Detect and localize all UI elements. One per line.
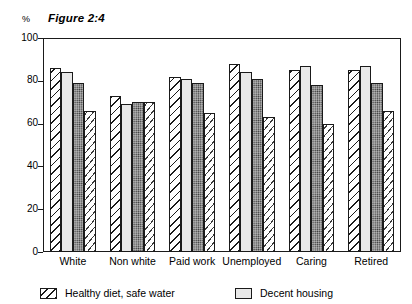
bar-group: [348, 38, 394, 252]
x-axis-tick-label: Retired: [331, 255, 411, 268]
legend-item: Decent housing: [235, 286, 333, 300]
legend-item: Healthy diet, safe water: [40, 286, 175, 300]
bar: [240, 72, 251, 252]
legend-swatch-icon: [235, 288, 252, 299]
legend-label: Healthy diet, safe water: [65, 287, 175, 299]
figure-title: Figure 2:4: [48, 12, 105, 24]
y-axis-tick-label: 80: [4, 75, 38, 85]
bar: [121, 104, 132, 252]
y-axis-tick-label: 40: [4, 161, 38, 171]
bar: [204, 113, 215, 252]
bar: [169, 77, 180, 252]
y-axis-tick-label: 20: [4, 204, 38, 214]
bar: [252, 79, 263, 252]
bar: [132, 102, 143, 252]
legend-swatch-icon: [40, 288, 57, 299]
legend-label: Decent housing: [260, 287, 333, 299]
y-axis-tick-mark: [38, 252, 43, 253]
bar: [73, 83, 84, 252]
y-axis-tick-label: 60: [4, 118, 38, 128]
bar: [383, 111, 394, 252]
bar: [61, 72, 72, 252]
bar: [181, 79, 192, 252]
bars-layer: [43, 38, 401, 252]
bar: [311, 85, 322, 252]
bar: [84, 111, 95, 252]
bar: [229, 64, 240, 252]
bar: [263, 117, 274, 252]
bar-group: [110, 38, 156, 252]
bar: [360, 66, 371, 252]
bar-group: [229, 38, 275, 252]
y-axis-tick-label: 100: [4, 33, 38, 43]
figure-container: % Figure 2:4 020406080100 WhiteNon white…: [0, 0, 412, 304]
chart-legend: Healthy diet, safe waterDecent housing: [40, 286, 412, 304]
bar-group: [169, 38, 215, 252]
bar: [192, 83, 203, 252]
bar-group: [289, 38, 335, 252]
bar: [289, 70, 300, 252]
y-axis-unit-label: %: [22, 14, 30, 24]
bar: [144, 102, 155, 252]
bar: [348, 70, 359, 252]
bar: [110, 96, 121, 252]
bar: [323, 124, 334, 252]
bar: [50, 68, 61, 252]
bar-group: [50, 38, 96, 252]
bar: [371, 83, 382, 252]
x-axis-labels: WhiteNon whitePaid workUnemployedCaringR…: [43, 255, 401, 271]
bar: [300, 66, 311, 252]
